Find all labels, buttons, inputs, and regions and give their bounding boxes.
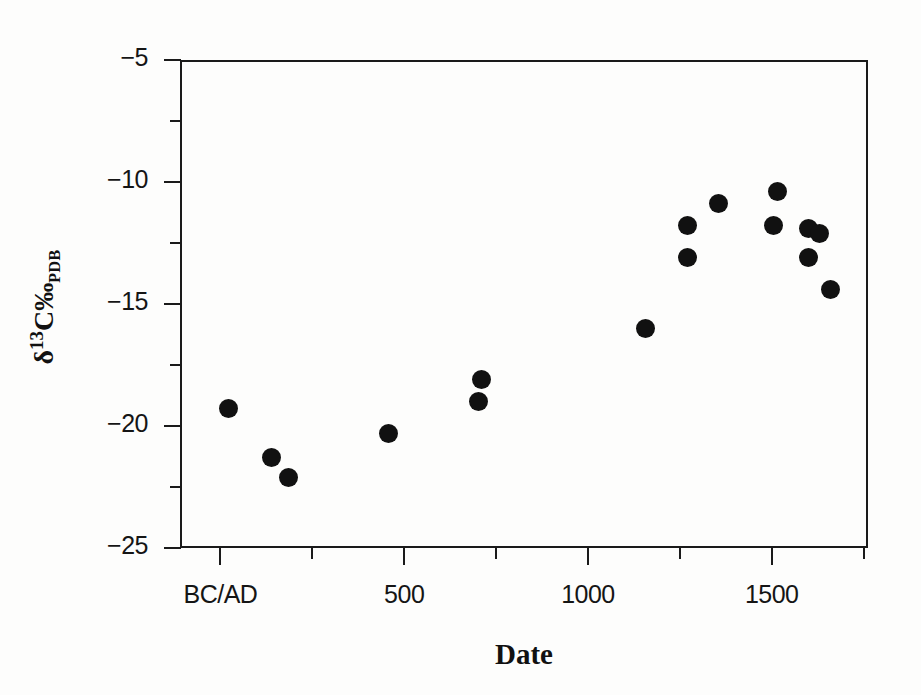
x-axis-tick-label: 1500 xyxy=(692,580,852,609)
y-axis-tick-label: −10 xyxy=(78,165,148,194)
y-axis-tick-major xyxy=(164,303,181,305)
permil-symbol: ‰ xyxy=(28,283,59,311)
x-axis-tick-major xyxy=(219,547,221,565)
x-axis-tick-minor xyxy=(679,547,681,559)
standard-subscript: PDB xyxy=(46,249,63,283)
y-axis-tick-major xyxy=(164,425,181,427)
x-axis-tick-minor xyxy=(495,547,497,559)
x-axis-tick-label: 500 xyxy=(324,580,484,609)
x-axis-tick-label: 1000 xyxy=(508,580,668,609)
x-axis-tick-major xyxy=(403,547,405,565)
y-axis-tick-label: −15 xyxy=(78,287,148,316)
mass-number: 13 xyxy=(26,331,47,350)
x-axis-tick-minor xyxy=(311,547,313,559)
y-axis-title-wrapper: δ13C‰PDB xyxy=(10,180,70,440)
plot-area-frame xyxy=(180,60,868,548)
y-axis-tick-minor xyxy=(170,364,181,366)
delta-symbol: δ xyxy=(28,350,59,365)
y-axis-title: δ13C‰PDB xyxy=(26,177,64,437)
x-axis-tick-minor xyxy=(863,547,865,559)
x-axis-title: Date xyxy=(180,638,868,671)
x-axis-tick-major xyxy=(771,547,773,565)
y-axis-tick-label: −25 xyxy=(78,531,148,560)
y-axis-tick-major xyxy=(164,181,181,183)
y-axis-tick-major xyxy=(164,59,181,61)
y-axis-tick-minor xyxy=(170,242,181,244)
x-axis-tick-label: BC/AD xyxy=(140,580,300,609)
element-symbol: C xyxy=(28,311,59,331)
y-axis-tick-label: −5 xyxy=(78,43,148,72)
y-axis-tick-label: −20 xyxy=(78,409,148,438)
y-axis-tick-minor xyxy=(170,120,181,122)
x-axis-tick-major xyxy=(587,547,589,565)
chart-page: −5−10−15−20−25BC/AD50010001500 δ13C‰PDB … xyxy=(0,0,921,695)
y-axis-tick-major xyxy=(164,547,181,549)
y-axis-tick-minor xyxy=(170,486,181,488)
